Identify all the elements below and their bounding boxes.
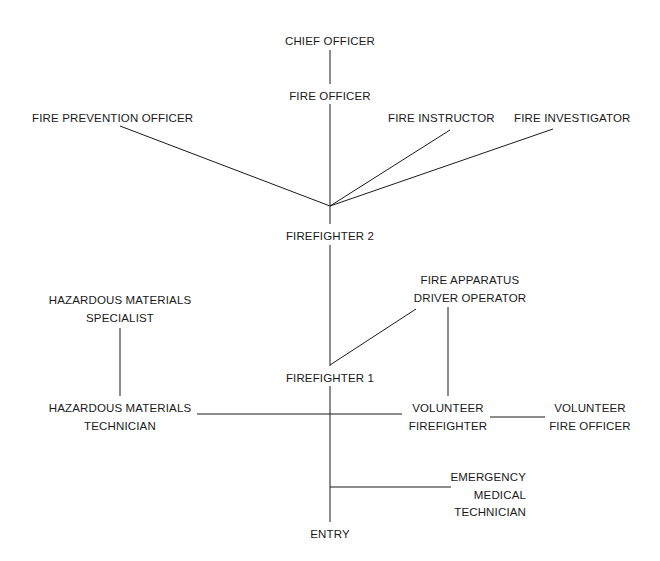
node-fire-officer: FIRE OFFICER (289, 88, 371, 106)
node-fire-investigator: FIRE INVESTIGATOR (514, 110, 631, 128)
node-label-line: VOLUNTEER (409, 400, 487, 418)
node-emergency-medical-technician: EMERGENCYMEDICALTECHNICIAN (451, 469, 526, 522)
node-label-line: ENTRY (310, 526, 350, 544)
node-label-line: DRIVER OPERATOR (414, 290, 526, 308)
node-label-line: EMERGENCY (451, 469, 526, 487)
node-firefighter-2: FIREFIGHTER 2 (286, 228, 374, 246)
node-fire-prevention-officer: FIRE PREVENTION OFFICER (32, 110, 193, 128)
node-hazardous-materials-technician: HAZARDOUS MATERIALSTECHNICIAN (49, 400, 192, 435)
node-label-line: MEDICAL (451, 487, 526, 505)
node-volunteer-fire-officer: VOLUNTEERFIRE OFFICER (549, 400, 631, 435)
node-label-line: FIRE PREVENTION OFFICER (32, 110, 193, 128)
node-label-line: FIRE OFFICER (289, 88, 371, 106)
connector-fire-investigator-to-firefighter-2 (330, 129, 553, 206)
node-label-line: HAZARDOUS MATERIALS (49, 400, 192, 418)
node-label-line: TECHNICIAN (49, 418, 192, 436)
node-label-line: CHIEF OFFICER (285, 33, 375, 51)
node-label-line: TECHNICIAN (451, 504, 526, 522)
node-hazardous-materials-specialist: HAZARDOUS MATERIALSSPECIALIST (49, 292, 192, 327)
node-chief-officer: CHIEF OFFICER (285, 33, 375, 51)
node-label-line: VOLUNTEER (549, 400, 631, 418)
node-volunteer-firefighter: VOLUNTEERFIREFIGHTER (409, 400, 487, 435)
node-firefighter-1: FIREFIGHTER 1 (286, 370, 374, 388)
connector-lines-layer (0, 0, 660, 561)
node-entry: ENTRY (310, 526, 350, 544)
node-label-line: SPECIALIST (49, 310, 192, 328)
node-label-line: FIRE INVESTIGATOR (514, 110, 631, 128)
node-fire-instructor: FIRE INSTRUCTOR (388, 110, 495, 128)
node-label-line: FIRE APPARATUS (414, 272, 526, 290)
node-label-line: FIREFIGHTER 2 (286, 228, 374, 246)
connector-fire-prevention-officer-to-firefighter-2 (120, 126, 330, 206)
connector-firefighter-1-to-driver-operator (330, 309, 416, 365)
node-fire-apparatus-driver-operator: FIRE APPARATUSDRIVER OPERATOR (414, 272, 526, 307)
connector-fire-instructor-to-firefighter-2 (330, 130, 450, 206)
node-label-line: FIRE INSTRUCTOR (388, 110, 495, 128)
node-label-line: FIREFIGHTER (409, 418, 487, 436)
node-label-line: HAZARDOUS MATERIALS (49, 292, 192, 310)
org-chart-diagram: CHIEF OFFICERFIRE OFFICERFIRE PREVENTION… (0, 0, 660, 561)
node-label-line: FIREFIGHTER 1 (286, 370, 374, 388)
node-label-line: FIRE OFFICER (549, 418, 631, 436)
